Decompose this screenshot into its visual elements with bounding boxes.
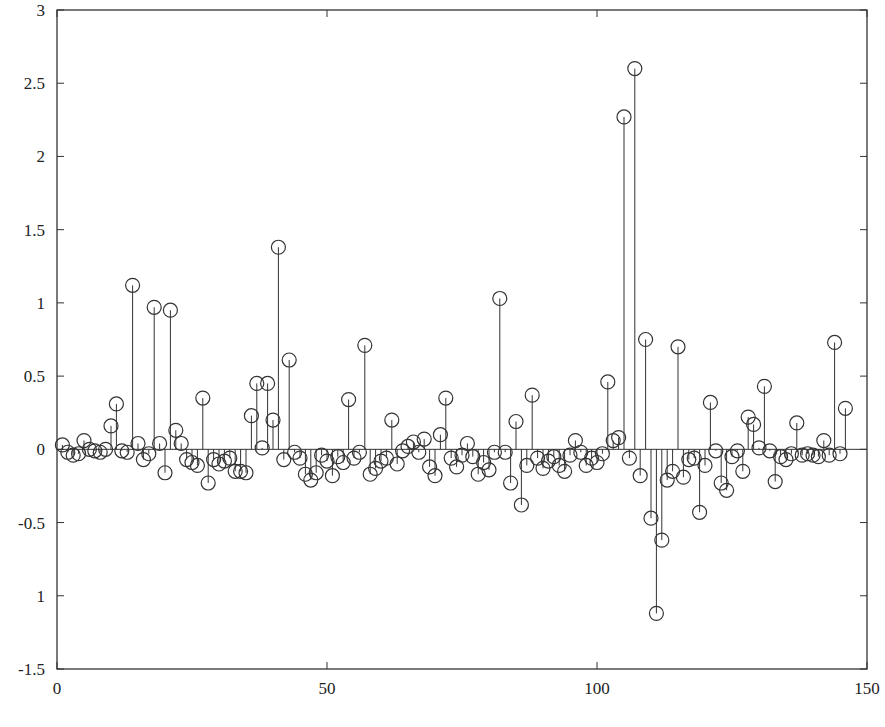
y-tick-label: -1.5 — [18, 660, 45, 679]
x-tick-label: 50 — [319, 679, 336, 698]
x-tick-label: 100 — [584, 679, 610, 698]
x-tick-label: 0 — [53, 679, 62, 698]
y-tick-label: 1.5 — [24, 221, 45, 240]
x-tick-label: 150 — [854, 679, 880, 698]
y-tick-label: 1 — [37, 294, 46, 313]
x-axis: 050100150 — [53, 10, 880, 698]
y-tick-label: 1 — [37, 587, 46, 606]
y-tick-label: 0 — [37, 440, 46, 459]
data-series — [55, 62, 867, 621]
y-tick-label: 3 — [37, 1, 46, 20]
plot-frame — [57, 10, 867, 669]
stem-chart: 32.521.510.50-0.51-1.5 050100150 — [0, 0, 885, 727]
y-axis: 32.521.510.50-0.51-1.5 — [18, 1, 867, 679]
y-tick-label: 2.5 — [24, 74, 45, 93]
y-tick-label: 0.5 — [24, 367, 45, 386]
y-tick-label: 2 — [37, 147, 46, 166]
y-tick-label: -0.5 — [18, 514, 45, 533]
plot-border — [57, 10, 867, 669]
